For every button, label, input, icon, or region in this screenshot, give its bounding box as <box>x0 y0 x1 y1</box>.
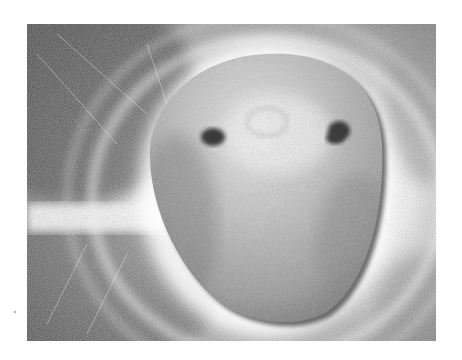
photo-frame <box>27 24 436 341</box>
stone-photo <box>27 24 436 341</box>
speck <box>14 311 16 313</box>
left-spot <box>201 128 225 146</box>
